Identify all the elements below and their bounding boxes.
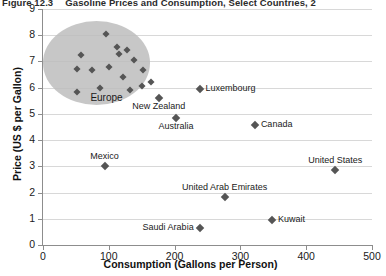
data-point — [220, 193, 228, 201]
y-tick — [38, 166, 43, 167]
plot-area: EuropeLuxembourgNew ZealandAustraliaCana… — [43, 9, 372, 245]
gridline — [43, 114, 372, 115]
data-point — [138, 83, 145, 90]
point-label: Australia — [158, 121, 193, 131]
y-tick-label: 0 — [9, 238, 35, 250]
y-tick — [38, 140, 43, 141]
y-tick — [38, 114, 43, 115]
y-tick — [38, 9, 43, 10]
point-label: United Arab Emirates — [182, 182, 267, 192]
y-tick — [38, 88, 43, 89]
point-label: Canada — [261, 119, 293, 129]
gridline — [43, 166, 372, 167]
data-point — [268, 216, 276, 224]
figure-title: Figure 12.3Gasoline Prices and Consumpti… — [2, 0, 386, 8]
data-point — [251, 121, 259, 129]
data-point — [101, 162, 109, 170]
y-tick — [38, 35, 43, 36]
point-label: Mexico — [90, 151, 119, 161]
point-label: Kuwait — [278, 214, 305, 224]
data-point — [195, 85, 203, 93]
gridline — [43, 193, 372, 194]
y-tick — [38, 219, 43, 220]
gridline — [43, 9, 372, 10]
y-axis-title: Price (US $ per Gallon) — [11, 14, 23, 234]
y-tick — [38, 193, 43, 194]
x-axis-line — [42, 245, 373, 246]
y-tick-label: 9 — [9, 2, 35, 14]
gridline — [43, 219, 372, 220]
x-axis-title: Consumption (Gallons per Person) — [0, 258, 381, 270]
point-label: Luxembourg — [206, 83, 256, 93]
data-point — [195, 224, 203, 232]
cluster-label-europe: Europe — [90, 92, 122, 103]
point-label: Saudi Arabia — [143, 222, 194, 232]
gridline — [43, 140, 372, 141]
data-point — [147, 79, 154, 86]
point-label: New Zealand — [132, 101, 185, 111]
point-label: United States — [308, 155, 362, 165]
figure-title-text: Gasoline Prices and Consumption, Select … — [65, 0, 316, 8]
